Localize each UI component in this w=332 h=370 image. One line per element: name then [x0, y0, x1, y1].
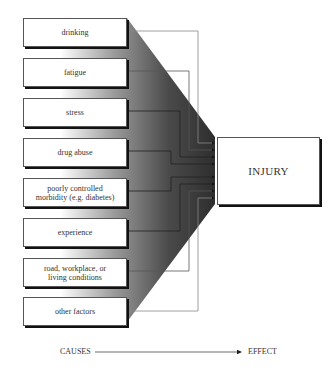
cause-box-drinking: drinking: [23, 18, 127, 47]
cause-label: stress: [66, 108, 84, 117]
cause-box-experience: experience: [23, 218, 127, 247]
cause-box-stress: stress: [23, 98, 127, 127]
cause-label: drinking: [61, 28, 88, 37]
cause-label: drug abuse: [58, 148, 93, 157]
cause-box-morbidity: poorly controlled morbidity (e.g. diabet…: [23, 178, 127, 207]
cause-label: poorly controlled morbidity (e.g. diabet…: [36, 184, 115, 202]
cause-box-conditions: road, workplace, or living conditions: [23, 258, 127, 287]
cause-box-fatigue: fatigue: [23, 58, 127, 87]
cause-effect-diagram: drinking fatigue stress drug abuse poorl…: [0, 0, 332, 370]
effect-label: INJURY: [248, 165, 288, 177]
cause-box-drug-abuse: drug abuse: [23, 138, 127, 167]
cause-box-other-factors: other factors: [23, 297, 127, 326]
cause-label: experience: [58, 228, 93, 237]
cause-label: fatigue: [64, 68, 86, 77]
effect-box-injury: INJURY: [217, 137, 320, 205]
effect-label: EFFECT: [248, 347, 277, 356]
causes-label: CAUSES: [60, 347, 91, 356]
cause-label: road, workplace, or living conditions: [44, 264, 106, 282]
cause-label: other factors: [55, 307, 95, 316]
